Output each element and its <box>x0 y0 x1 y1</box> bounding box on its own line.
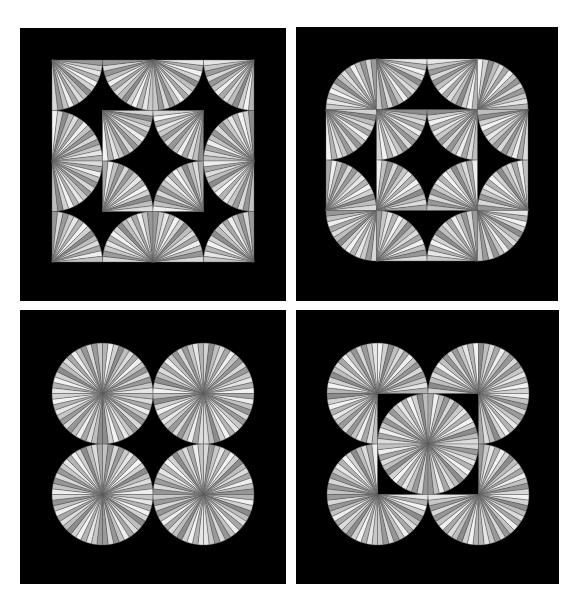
fan-block <box>327 343 378 394</box>
fan-block <box>153 343 204 394</box>
quilt-panel-top-right <box>296 27 558 301</box>
fan-block <box>427 211 478 262</box>
fan-block <box>103 495 154 546</box>
fan-block <box>478 110 529 161</box>
fan-block <box>326 110 377 161</box>
fan-block <box>103 60 154 111</box>
fan-block <box>52 343 103 394</box>
fan-block <box>153 111 204 162</box>
fan-block <box>479 394 530 445</box>
fan-block <box>153 60 204 111</box>
fan-block <box>479 444 530 495</box>
fan-block <box>103 394 154 445</box>
fan-block <box>428 394 479 445</box>
fan-block <box>428 343 479 394</box>
fan-block <box>204 343 255 394</box>
fan-block <box>327 444 378 495</box>
fan-block <box>103 161 154 212</box>
fan-block <box>326 211 377 262</box>
fan-block <box>479 343 530 394</box>
fan-block <box>52 161 103 212</box>
fan-block <box>427 160 478 211</box>
fan-block <box>204 212 255 263</box>
fan-block <box>478 160 529 211</box>
fan-block <box>103 444 154 495</box>
fan-block <box>204 495 255 546</box>
fan-block <box>204 394 255 445</box>
fan-blocks <box>296 310 559 584</box>
fan-block <box>153 394 204 445</box>
quilt-panel-bottom-left <box>20 310 286 584</box>
fan-block <box>52 111 103 162</box>
fan-block <box>52 212 103 263</box>
fan-block <box>103 212 154 263</box>
fan-block <box>428 495 479 546</box>
fan-block <box>204 161 255 212</box>
fan-block <box>153 161 204 212</box>
fan-blocks <box>20 310 286 584</box>
fan-block <box>378 343 429 394</box>
fan-block <box>377 211 428 262</box>
fan-block <box>204 60 255 111</box>
fan-block <box>204 111 255 162</box>
fan-block <box>327 495 378 546</box>
fan-blocks <box>296 27 558 301</box>
fan-block <box>378 394 429 445</box>
fan-block <box>153 212 204 263</box>
fan-block <box>478 211 529 262</box>
fan-block <box>378 444 429 495</box>
fan-block <box>52 394 103 445</box>
fan-block <box>428 444 479 495</box>
fan-block <box>103 343 154 394</box>
quilt-panel-bottom-right <box>296 310 559 584</box>
fan-block <box>52 444 103 495</box>
fan-blocks <box>20 28 286 301</box>
fan-block <box>103 111 154 162</box>
fan-block <box>377 59 428 110</box>
fan-block <box>377 160 428 211</box>
fan-block <box>479 495 530 546</box>
fan-block <box>326 59 377 110</box>
fan-block <box>377 110 428 161</box>
fan-block <box>52 495 103 546</box>
fan-block <box>427 59 478 110</box>
fan-block <box>427 110 478 161</box>
fan-block <box>326 160 377 211</box>
fan-block <box>478 59 529 110</box>
fan-block <box>204 444 255 495</box>
fan-block <box>327 394 378 445</box>
quilt-panel-top-left <box>20 28 286 301</box>
fan-block <box>378 495 429 546</box>
fan-block <box>153 495 204 546</box>
fan-block <box>153 444 204 495</box>
fan-block <box>52 60 103 111</box>
